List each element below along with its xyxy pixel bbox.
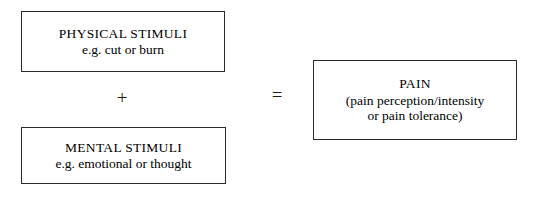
- physical-stimuli-box: PHYSICAL STIMULI e.g. cut or burn: [21, 11, 225, 72]
- pain-subtitle-line-2: or pain tolerance): [367, 108, 462, 124]
- mental-stimuli-subtitle: e.g. emotional or thought: [55, 156, 191, 172]
- mental-stimuli-title: MENTAL STIMULI: [65, 140, 182, 156]
- pain-subtitle-line-1: (pain perception/intensity: [346, 93, 484, 109]
- physical-stimuli-title: PHYSICAL STIMULI: [59, 26, 187, 42]
- pain-box: PAIN (pain perception/intensity or pain …: [313, 60, 517, 140]
- pain-title: PAIN: [399, 76, 430, 92]
- physical-stimuli-subtitle: e.g. cut or burn: [82, 42, 164, 58]
- plus-operator: +: [108, 88, 136, 107]
- diagram-canvas: PHYSICAL STIMULI e.g. cut or burn + MENT…: [0, 0, 538, 199]
- equals-operator: =: [258, 85, 296, 104]
- mental-stimuli-box: MENTAL STIMULI e.g. emotional or thought: [21, 127, 226, 184]
